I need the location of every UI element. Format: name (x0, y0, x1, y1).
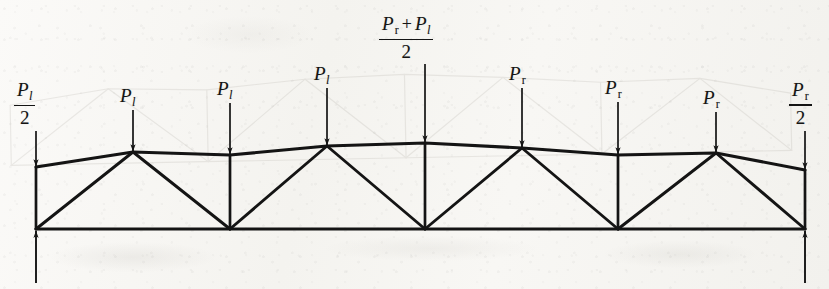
label-right-load-3: Pr (703, 88, 720, 110)
center-load-denominator: 2 (379, 41, 433, 61)
web-member-5 (425, 148, 522, 229)
web-members (36, 146, 805, 229)
web-member-6 (522, 148, 618, 229)
web-member-7 (618, 153, 716, 229)
chord-members (36, 143, 805, 229)
reaction-arrows (36, 231, 805, 283)
label-left-load-3: Pl (314, 64, 329, 87)
right-reaction-denominator: 2 (789, 107, 812, 127)
center-load-right-symbol: P (415, 13, 427, 34)
right-reaction-subscript: r (804, 89, 809, 103)
left-load-2-subscript: l (229, 88, 233, 102)
right-load-3-subscript: r (715, 97, 720, 111)
label-center-load: Pr+Pl 2 (379, 14, 433, 61)
label-right-reaction: Pr 2 (789, 80, 812, 127)
left-load-1-subscript: l (132, 95, 136, 109)
label-left-load-2: Pl (217, 79, 232, 102)
web-member-4 (327, 146, 425, 229)
center-load-right-subscript: l (427, 23, 431, 37)
center-load-fraction-bar (379, 39, 433, 41)
label-right-load-2: Pr (605, 78, 622, 100)
left-reaction-denominator: 2 (14, 107, 35, 127)
center-load-left-symbol: P (382, 13, 394, 34)
web-member-3 (230, 146, 327, 229)
left-load-3-subscript: l (326, 73, 330, 87)
left-load-1-symbol: P (120, 85, 132, 106)
left-reaction-subscript: l (29, 89, 33, 103)
web-member-2 (133, 152, 230, 229)
label-right-load-1: Pr (509, 64, 526, 86)
left-load-3-symbol: P (314, 63, 326, 84)
web-member-8 (716, 153, 805, 229)
right-load-1-symbol: P (509, 63, 521, 84)
left-reaction-fraction-bar (14, 105, 35, 107)
right-load-2-subscript: r (617, 87, 622, 101)
right-reaction-fraction-bar (789, 104, 812, 106)
label-left-load-1: Pl (120, 86, 135, 109)
vertical-members (36, 143, 805, 229)
label-left-reaction: Pl 2 (14, 80, 35, 127)
truss-loading-figure: Pl 2 Pl Pl Pl Pr+Pl 2 Pr Pr Pr Pr 2 (0, 0, 829, 289)
center-load-operator: + (399, 14, 415, 34)
right-load-3-symbol: P (703, 87, 715, 108)
right-load-1-subscript: r (521, 73, 526, 87)
right-load-2-symbol: P (605, 77, 617, 98)
left-reaction-symbol: P (17, 79, 29, 100)
right-reaction-symbol: P (792, 79, 804, 100)
left-load-2-symbol: P (217, 78, 229, 99)
